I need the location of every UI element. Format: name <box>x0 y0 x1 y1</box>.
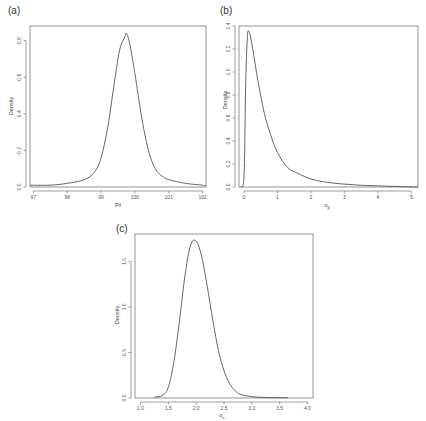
y-tick-label: 0.6 <box>16 74 22 81</box>
y-tick-label: 1.0 <box>121 303 127 310</box>
x-tick-label: 1.0 <box>137 405 144 411</box>
panel-a-x-axis: 979899100101102 <box>31 191 207 200</box>
x-tick-label: 101 <box>165 194 174 200</box>
y-tick-label: 0.2 <box>16 147 22 154</box>
panel-c-label: (c) <box>116 223 128 234</box>
y-tick-label: 0.0 <box>121 394 127 401</box>
x-tick-label: 3.0 <box>248 405 255 411</box>
y-tick-label: 0.8 <box>16 37 22 44</box>
panel-c-frame <box>135 234 313 398</box>
panel-b-frame <box>239 26 418 187</box>
y-tick-label: 1.0 <box>225 68 231 75</box>
panel-a-density-curve <box>30 33 206 186</box>
panel-c-density-curve <box>154 240 288 398</box>
x-tick-label: 100 <box>131 194 140 200</box>
panel-c: (c) 1.01.52.02.53.03.54.0 0.00.51.01.5 σ… <box>114 223 313 420</box>
x-tick-label: 1 <box>276 194 279 200</box>
y-tick-label: 0.0 <box>225 183 231 190</box>
x-tick-label: 4 <box>376 194 379 200</box>
panel-b-label: (b) <box>220 5 232 16</box>
panel-a-xlabel: Pil <box>115 202 121 208</box>
panel-a-frame <box>30 26 206 187</box>
y-tick-label: 0.0 <box>16 183 22 190</box>
panel-c-y-axis: 0.00.51.01.5 <box>121 258 131 402</box>
y-tick-label: 0.4 <box>16 110 22 117</box>
x-tick-label: 99 <box>98 194 104 200</box>
x-tick-label: 1.5 <box>165 405 172 411</box>
y-tick-label: 1.4 <box>225 22 231 29</box>
x-tick-label: 97 <box>31 194 37 200</box>
x-tick-label: 5 <box>410 194 413 200</box>
x-tick-label: 4.0 <box>304 405 311 411</box>
panel-b-x-axis: 012345 <box>243 191 413 200</box>
x-tick-label: 2.5 <box>221 405 228 411</box>
panel-c-ylabel: Density <box>114 306 120 325</box>
panel-a-y-axis: 0.00.20.40.60.8 <box>16 37 26 191</box>
panel-c-x-axis: 1.01.52.02.53.03.54.0 <box>137 402 311 411</box>
x-tick-label: 102 <box>198 194 207 200</box>
figure: (a) 979899100101102 0.00.20.40.60.8 Pil … <box>0 0 426 421</box>
panel-a: (a) 979899100101102 0.00.20.40.60.8 Pil … <box>8 5 207 208</box>
panel-c-xlabel: σe <box>219 412 225 420</box>
panel-b-density-curve <box>241 31 418 187</box>
x-tick-label: 98 <box>64 194 70 200</box>
panel-b: (b) 012345 0.00.20.40.60.81.01.21.4 σβ D… <box>220 5 418 210</box>
panel-b-xlabel: σβ <box>324 202 330 210</box>
x-tick-label: 3.5 <box>276 405 283 411</box>
y-tick-label: 1.2 <box>225 45 231 52</box>
y-tick-label: 1.5 <box>121 258 127 265</box>
x-tick-label: 2 <box>310 194 313 200</box>
y-tick-label: 0.6 <box>225 114 231 121</box>
y-tick-label: 0.2 <box>225 160 231 167</box>
panel-a-ylabel: Density <box>8 97 14 116</box>
y-tick-label: 0.4 <box>225 137 231 144</box>
x-tick-label: 0 <box>243 194 246 200</box>
x-tick-label: 3 <box>343 194 346 200</box>
y-tick-label: 0.5 <box>121 349 127 356</box>
panel-a-label: (a) <box>8 5 20 16</box>
x-tick-label: 2.0 <box>193 405 200 411</box>
panel-b-ylabel: Density <box>222 91 228 110</box>
